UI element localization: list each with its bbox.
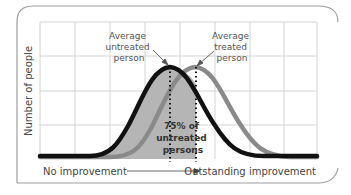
treated-annotation: Average treated person: [212, 31, 252, 63]
percent-annotation: 75% of untreated persons: [156, 121, 210, 155]
x-axis-label-left: No improvement: [43, 166, 127, 177]
x-axis-label-right: Outstanding improvement: [184, 166, 316, 177]
chart: Average untreated person Average treated…: [0, 0, 351, 195]
y-axis-label: Number of people: [23, 46, 34, 136]
annotation-arrows: [153, 50, 214, 66]
untreated-annotation: Average untreated person: [105, 31, 152, 63]
